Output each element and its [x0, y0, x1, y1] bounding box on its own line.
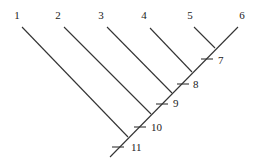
taxon-label-6: 6 [239, 9, 245, 21]
taxon-label-5: 5 [187, 9, 193, 21]
character-label-9: 9 [173, 97, 179, 109]
branch-line-taxon-1 [22, 27, 128, 137]
taxon-label-2: 2 [55, 9, 61, 21]
branch-line-taxon-3 [107, 27, 172, 93]
character-label-8: 8 [193, 78, 199, 90]
cladogram: 1234567891011 [0, 0, 254, 165]
character-label-10: 10 [151, 121, 163, 133]
taxon-label-1: 1 [14, 9, 20, 21]
branch-line-taxon-4 [150, 28, 192, 72]
taxon-label-3: 3 [98, 9, 104, 21]
character-label-7: 7 [218, 54, 224, 66]
character-label-11: 11 [131, 141, 142, 153]
taxon-label-4: 4 [141, 9, 147, 21]
branch-line-taxon-5 [194, 27, 215, 48]
branch-line-taxon-2 [64, 27, 151, 114]
